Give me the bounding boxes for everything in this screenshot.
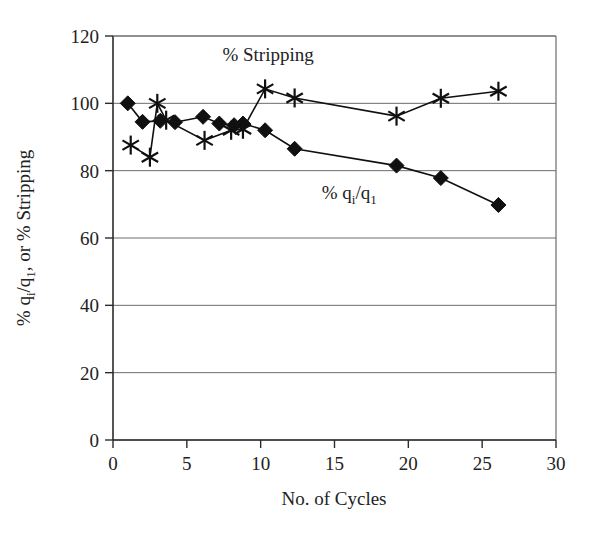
- series-annotation-stripping: % Stripping: [222, 44, 314, 65]
- x-tick-label-25: 25: [473, 453, 492, 474]
- y-tick-label-20: 20: [80, 363, 99, 384]
- x-axis-title: No. of Cycles: [281, 488, 386, 509]
- chart-background: [0, 0, 595, 536]
- y-tick-label-40: 40: [80, 295, 99, 316]
- y-tick-label-100: 100: [71, 93, 100, 114]
- x-tick-label-0: 0: [108, 453, 118, 474]
- y-tick-label-120: 120: [71, 26, 100, 47]
- x-tick-label-30: 30: [547, 453, 566, 474]
- line-chart: 051015202530 020406080100120 % Stripping…: [0, 0, 595, 536]
- x-tick-label-10: 10: [251, 453, 270, 474]
- x-tick-label-20: 20: [399, 453, 418, 474]
- y-tick-label-0: 0: [90, 430, 100, 451]
- y-tick-label-60: 60: [80, 228, 99, 249]
- chart-container: 051015202530 020406080100120 % Stripping…: [0, 0, 595, 536]
- y-tick-label-80: 80: [80, 161, 99, 182]
- x-tick-label-15: 15: [325, 453, 344, 474]
- x-tick-label-5: 5: [182, 453, 192, 474]
